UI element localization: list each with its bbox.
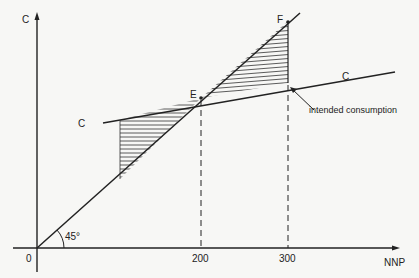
y-axis-label: C	[22, 14, 29, 25]
angle-arc	[57, 230, 64, 248]
point-f-label: F	[277, 14, 283, 25]
consumption-diagram: C NNP 0 200 300 45° C C E F intended con…	[0, 0, 419, 278]
point-e-marker	[199, 96, 203, 100]
origin-label: 0	[26, 253, 32, 264]
consumption-label-left: C	[78, 118, 85, 129]
intended-consumption-label: intended consumption	[309, 105, 397, 115]
consumption-label-right: C	[342, 71, 349, 82]
x-axis-label: NNP	[384, 257, 405, 268]
angle-label: 45°	[65, 231, 80, 242]
tick-300: 300	[279, 253, 296, 264]
tick-200: 200	[192, 253, 209, 264]
x-axis-arrow-icon	[392, 246, 400, 251]
hatched-region-left	[100, 101, 210, 177]
consumption-line	[103, 72, 395, 123]
point-e-label: E	[190, 89, 197, 100]
forty-five-degree-line	[37, 13, 300, 248]
y-axis-arrow-icon	[35, 12, 40, 20]
point-f-marker	[286, 20, 290, 24]
